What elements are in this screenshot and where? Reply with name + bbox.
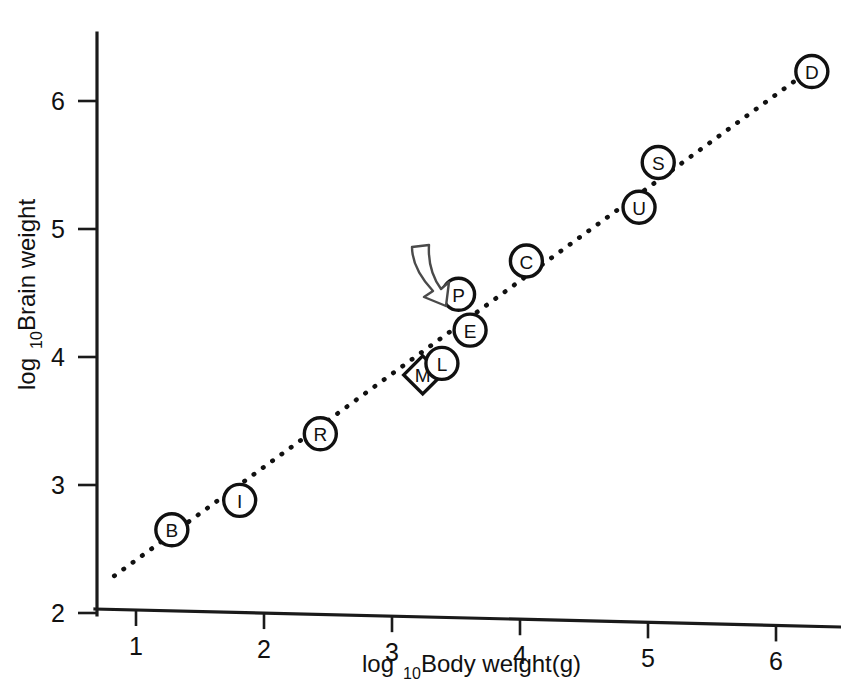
marker-label-I: I: [237, 491, 242, 512]
marker-label-S: S: [652, 153, 665, 174]
x-tick-label-1: 1: [129, 632, 143, 660]
x-tick-marks: [136, 610, 776, 641]
y-tick-labels: 23456: [51, 87, 65, 627]
y-tick-label-6: 6: [51, 87, 65, 115]
data-point-E: E: [454, 314, 486, 346]
data-point-B: B: [156, 514, 188, 546]
marker-label-B: B: [165, 520, 178, 541]
data-point-R: R: [304, 418, 336, 450]
y-axis-title-subscript: 10: [28, 331, 45, 349]
scatter-plot-figure: 23456 123456 BIRMLEPCUSD log 10 Body wei…: [0, 0, 841, 696]
y-tick-marks: [78, 101, 97, 613]
x-tick-label-6: 6: [769, 647, 783, 675]
data-point-C: C: [510, 245, 542, 277]
x-axis-title-main: log: [362, 650, 394, 677]
y-axis-group: 23456: [51, 33, 97, 627]
data-point-L: L: [426, 347, 458, 379]
data-point-U: U: [623, 191, 655, 223]
marker-label-P: P: [452, 285, 465, 306]
data-point-D: D: [796, 56, 828, 88]
plot-canvas: 23456 123456 BIRMLEPCUSD log 10 Body wei…: [0, 0, 841, 696]
marker-label-U: U: [632, 198, 646, 219]
y-tick-label-4: 4: [51, 343, 65, 371]
curved-arrow-icon: [412, 245, 449, 306]
marker-label-R: R: [313, 424, 327, 445]
data-point-I: I: [224, 484, 256, 516]
data-point-S: S: [642, 146, 674, 178]
y-axis-title-group: log 10 Brain weight: [13, 199, 45, 390]
x-axis-title-subscript: 10: [403, 665, 421, 682]
y-axis-title-rest: Brain weight: [13, 199, 40, 331]
y-axis-title-main: log: [13, 358, 40, 390]
marker-label-D: D: [805, 62, 819, 83]
y-tick-label-5: 5: [51, 215, 65, 243]
x-tick-label-5: 5: [641, 644, 655, 672]
marker-label-E: E: [464, 321, 477, 342]
y-tick-label-3: 3: [51, 471, 65, 499]
x-tick-label-2: 2: [257, 635, 271, 663]
y-tick-label-2: 2: [51, 599, 65, 627]
marker-label-L: L: [437, 354, 448, 375]
x-axis-title-rest: Body weight(g): [421, 650, 581, 677]
curved-arrow-annotation: [412, 245, 449, 306]
marker-label-C: C: [520, 252, 534, 273]
x-axis-line: [95, 609, 841, 627]
